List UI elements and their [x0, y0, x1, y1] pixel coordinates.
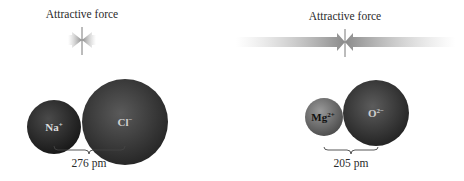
distance-label: 205 pm [334, 157, 369, 170]
distance-label: 276 pm [72, 157, 107, 170]
distance-brace [324, 147, 378, 154]
attractive-force-arrows-icon [68, 27, 96, 55]
ionic-attraction-diagram: Attractive force Na+ Cl− 276 pm Attracti… [0, 0, 464, 181]
force-label: Attractive force [309, 10, 381, 22]
panel-mgo: Attractive force Mg2+ O2− 205 pm [236, 10, 455, 170]
panel-nacl: Attractive force Na+ Cl− 276 pm [27, 8, 168, 170]
attractive-force-arrows-icon [236, 29, 455, 57]
force-label: Attractive force [46, 8, 118, 20]
